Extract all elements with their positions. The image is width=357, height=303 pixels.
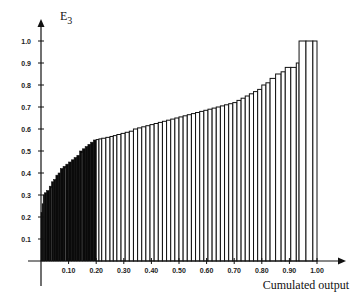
bar bbox=[58, 173, 60, 261]
bar bbox=[187, 115, 191, 261]
bar bbox=[179, 117, 183, 261]
bar bbox=[245, 96, 249, 261]
bar bbox=[66, 164, 69, 261]
bar bbox=[212, 108, 216, 261]
bar bbox=[208, 109, 212, 261]
bar bbox=[175, 118, 179, 261]
y-tick-label: 0.8 bbox=[21, 82, 31, 89]
bar bbox=[171, 119, 175, 261]
bar bbox=[285, 67, 291, 261]
bar bbox=[262, 85, 266, 261]
bar bbox=[146, 126, 150, 261]
x-tick-label: 0.30 bbox=[117, 267, 131, 274]
bar bbox=[266, 83, 270, 261]
bar bbox=[241, 98, 245, 261]
bar bbox=[229, 104, 233, 261]
bar bbox=[313, 41, 317, 261]
bar bbox=[69, 162, 72, 261]
bar bbox=[121, 133, 125, 261]
bar bbox=[51, 182, 53, 261]
bar bbox=[220, 106, 224, 261]
bar bbox=[56, 175, 58, 261]
x-tick-label: 0.20 bbox=[89, 267, 103, 274]
bar bbox=[47, 191, 50, 261]
bar bbox=[150, 125, 154, 261]
y-axis-arrow-icon bbox=[38, 19, 45, 27]
y-tick-label: 0.7 bbox=[21, 104, 31, 111]
x-tick-label: 0.70 bbox=[227, 267, 241, 274]
bar bbox=[254, 92, 258, 261]
bar bbox=[106, 137, 110, 261]
x-tick-label: 0.10 bbox=[62, 267, 76, 274]
x-axis-title: Cumulated output bbox=[263, 278, 350, 292]
bar bbox=[91, 142, 94, 261]
y-tick-label: 0.3 bbox=[21, 192, 31, 199]
e3-cumulated-output-chart: 0.100.200.300.400.500.600.700.800.901.00… bbox=[0, 0, 357, 303]
bar bbox=[233, 103, 237, 261]
y-tick-label: 0.9 bbox=[21, 60, 31, 67]
bar bbox=[142, 127, 146, 261]
bar bbox=[167, 120, 171, 261]
x-tick-label: 0.50 bbox=[172, 267, 186, 274]
bar bbox=[237, 100, 241, 261]
bar bbox=[204, 110, 208, 261]
bar bbox=[291, 67, 297, 261]
y-axis-title: E3 bbox=[60, 9, 72, 26]
bar bbox=[162, 121, 166, 261]
bar bbox=[117, 135, 121, 262]
bar bbox=[63, 166, 66, 261]
bar bbox=[71, 160, 74, 261]
x-tick-label: 0.90 bbox=[283, 267, 297, 274]
bar bbox=[88, 144, 91, 261]
x-tick-label: 0.60 bbox=[200, 267, 214, 274]
bar bbox=[200, 111, 204, 261]
y-tick-label: 0.6 bbox=[21, 126, 31, 133]
bar bbox=[102, 138, 106, 261]
bar bbox=[299, 41, 306, 261]
bar bbox=[74, 158, 77, 261]
bar bbox=[113, 136, 117, 261]
x-tick-label: 0.80 bbox=[255, 267, 269, 274]
bar bbox=[82, 149, 85, 261]
y-tick-label: 0.4 bbox=[21, 170, 31, 177]
bar bbox=[125, 132, 129, 261]
bar bbox=[154, 124, 158, 262]
y-tick-label: 0.5 bbox=[21, 148, 31, 155]
bar bbox=[183, 116, 187, 261]
bar bbox=[276, 74, 282, 261]
bar bbox=[258, 89, 262, 261]
bar bbox=[54, 180, 56, 261]
bar bbox=[270, 78, 276, 261]
bar bbox=[44, 193, 46, 261]
bar bbox=[196, 113, 200, 262]
bar-series bbox=[41, 41, 317, 261]
bar bbox=[80, 151, 83, 261]
bar bbox=[85, 147, 88, 261]
x-tick-label: 0.40 bbox=[145, 267, 159, 274]
bar bbox=[129, 131, 133, 261]
y-tick-label: 1.0 bbox=[21, 38, 31, 45]
bar bbox=[77, 155, 80, 261]
x-tick-label: 1.00 bbox=[310, 267, 324, 274]
bar bbox=[138, 128, 142, 261]
bar bbox=[225, 105, 229, 261]
bar bbox=[191, 114, 195, 261]
bar bbox=[216, 107, 220, 261]
bar bbox=[306, 41, 313, 261]
bar bbox=[60, 169, 63, 261]
bar bbox=[158, 122, 162, 261]
x-axis-arrow-icon bbox=[338, 258, 346, 265]
bar bbox=[133, 129, 137, 261]
y-tick-label: 0.2 bbox=[21, 214, 31, 221]
bar bbox=[281, 72, 285, 261]
bar bbox=[249, 94, 253, 261]
y-tick-label: 0.1 bbox=[21, 236, 31, 243]
